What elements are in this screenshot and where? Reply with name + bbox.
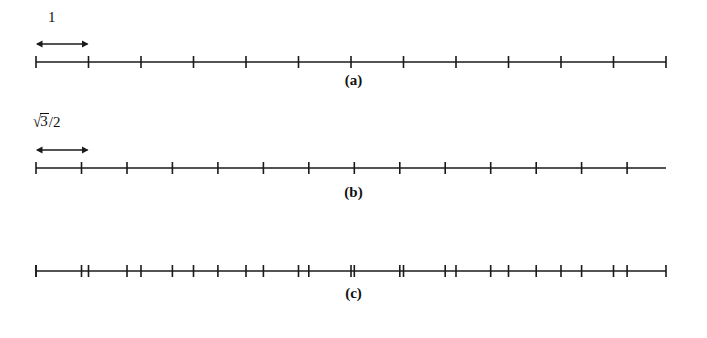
panel-c: (c)	[0, 215, 707, 338]
measure-arrow-head-left	[36, 41, 43, 48]
caption-c: (c)	[0, 285, 707, 302]
ruler-a-svg	[0, 0, 707, 108]
ruler-c-svg	[0, 215, 707, 338]
panel-b: √3/2 (b)	[0, 108, 707, 215]
panel-a: 1 (a)	[0, 0, 707, 108]
measure-arrow-head-right	[82, 41, 89, 48]
measure-arrow-head-left	[36, 147, 43, 154]
number-line-figure: 1 (a) √3/2 (b) (c)	[0, 0, 707, 338]
caption-b: (b)	[0, 184, 707, 201]
caption-a: (a)	[0, 72, 707, 89]
measure-arrow-head-right	[82, 147, 89, 154]
